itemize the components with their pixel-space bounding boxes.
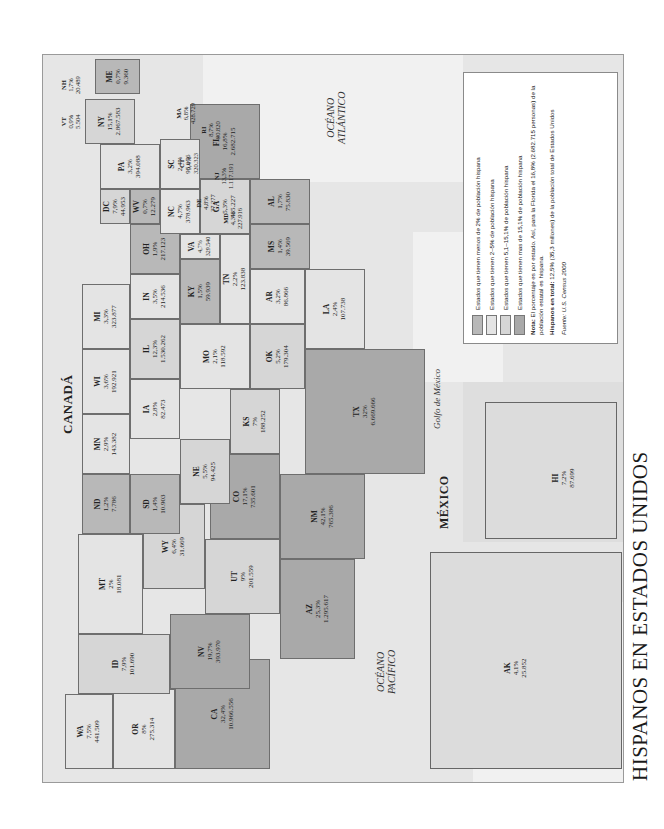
state-pop: 428.729 <box>189 103 196 124</box>
state-pop: 82.473 <box>159 399 167 418</box>
rotated-map-canvas: CANADÁ MÉXICO OCÉANO ATLÁNTICO OCÉANO PA… <box>0 0 664 829</box>
state-pct: 3,5% <box>151 289 159 304</box>
state-pct: 3,2% <box>274 289 282 304</box>
state-pct: 7,5% <box>85 724 93 739</box>
state-pop: 37.277 <box>209 194 216 212</box>
state-mt: MT2%18.081 <box>78 534 143 634</box>
legend-source-text: Fuente: U.S. Census 2000 <box>560 262 567 335</box>
state-id: ID7,9%101.690 <box>78 634 170 694</box>
state-pct: 4,8% <box>202 194 209 212</box>
state-pct: 12,3% <box>151 340 159 358</box>
state-pop: 378.963 <box>184 200 192 223</box>
state-nj: NJ13,3%1.117.191 <box>213 163 234 189</box>
state-abbr: WA <box>77 725 85 737</box>
state-ks: KS7%188.252 <box>230 389 280 454</box>
pacific-label-line1: OCÉANO <box>375 650 386 694</box>
state-pct: 0,7% <box>141 199 149 214</box>
state-pct: 32,4% <box>219 705 227 723</box>
state-tx: TX32%6.669.666 <box>305 349 425 474</box>
state-pop: 94.425 <box>209 462 217 481</box>
state-pct: 19,7% <box>206 642 214 660</box>
legend-total-text: 12,5% (35,3 millones) de la población to… <box>548 109 555 281</box>
state-wv: WV0,7%12.279 <box>130 189 160 224</box>
state-la: LA2,4%107.738 <box>305 269 365 349</box>
state-pct: 4,7% <box>196 240 204 253</box>
state-pa: PA3,2%394.088 <box>100 144 160 189</box>
state-pop: 394.088 <box>134 155 142 178</box>
state-pop: 393.970 <box>214 640 222 663</box>
pacific-label: OCÉANO PACÍFICO <box>375 650 397 694</box>
state-pop: 75.830 <box>284 192 292 211</box>
state-pop: 90.820 <box>214 121 221 139</box>
state-me: ME0,7%9.360 <box>95 59 140 94</box>
legend-label: Estados que tienen mas de 15,1% de pobla… <box>516 156 523 310</box>
state-pop: 2.867.583 <box>114 108 122 136</box>
state-pop: 143.382 <box>110 433 118 456</box>
state-nv: NV19,7%393.970 <box>170 614 250 689</box>
legend-item: Estados que tienen mas de 15,1% de pobla… <box>514 81 525 335</box>
state-pop: 765.386 <box>327 505 335 528</box>
legend-swatch <box>486 315 497 335</box>
state-pct: 1,9% <box>151 242 159 257</box>
state-pop: 227.916 <box>236 208 243 229</box>
state-pct: 6,4% <box>170 539 178 554</box>
state-pop: 217.123 <box>159 238 167 261</box>
state-ne: NE5,5%94.425 <box>180 439 230 504</box>
state-pop: 7.786 <box>110 496 118 512</box>
state-pop: 320.323 <box>192 153 199 174</box>
state-pct: 2,4% <box>331 302 339 317</box>
state-pop: 118.592 <box>219 345 227 368</box>
state-pct: 1,5% <box>196 284 204 299</box>
legend-label: Estados que tienen 2–5% de población his… <box>488 179 495 310</box>
state-ky: KY1,5%59.939 <box>180 259 220 324</box>
gulf-label: Golfo de México <box>432 369 443 429</box>
legend-total: Hispanos en total: 12,5% (35,3 millones)… <box>548 81 556 335</box>
state-ok: OK5,2%179.304 <box>250 324 305 389</box>
state-pop: 214.536 <box>159 285 167 308</box>
state-pct: 9% <box>239 572 247 581</box>
state-pct: 3,6% <box>102 374 110 389</box>
state-pct: 13,3% <box>220 163 227 189</box>
legend-item: Estados que tienen 2–5% de población his… <box>486 81 497 335</box>
legend-note-heading: Nota: <box>529 319 536 335</box>
legend-swatch <box>472 315 483 335</box>
state-pct: 4,7% <box>176 204 184 219</box>
state-nd: ND1,2%7.786 <box>82 474 130 534</box>
state-pct: 7% <box>251 417 259 426</box>
state-pct: 1,4% <box>151 497 159 512</box>
state-pop: 39.569 <box>284 237 292 256</box>
legend-label: Estados que tienen 5,1–15,1% de població… <box>502 166 509 311</box>
state-pop: 107.738 <box>339 298 347 321</box>
state-pop: 20.489 <box>74 76 81 94</box>
legend-swatch <box>514 315 525 335</box>
state-ct: CT9,4%320.323 <box>178 153 199 174</box>
state-pct: 5,5% <box>201 464 209 479</box>
state-pct: 4,3% <box>229 208 236 229</box>
state-pop: 9.360 <box>122 69 130 85</box>
state-pop: 10.966.556 <box>227 698 235 730</box>
pacific-label-line2: PACÍFICO <box>386 650 397 694</box>
state-pop: 6.669.666 <box>369 398 377 426</box>
state-pct: 8,7% <box>207 121 214 139</box>
legend-note-text: El porcentaje es por estado. Así, para l… <box>529 86 544 335</box>
state-pct: 1,7% <box>276 194 284 209</box>
state-pop: 192.921 <box>110 370 118 393</box>
state-hi: HI7,2%87.699 <box>541 448 586 508</box>
state-pct: 2% <box>107 579 115 588</box>
canada-label: CANADÁ <box>60 375 76 434</box>
state-az: AZ25,3%1.295.617 <box>280 559 355 659</box>
state-va: VA4,7%329.540 <box>180 234 220 259</box>
state-tn: TN2,2%123.838 <box>220 234 250 324</box>
state-pop: 188.252 <box>259 410 267 433</box>
map-title: HISPANOS EN ESTADOS UNIDOS <box>628 451 653 781</box>
state-nh: NH1,7%20.489 <box>60 76 81 94</box>
state-pop: 2.682.715 <box>229 128 237 156</box>
state-ri: RI8,7%90.820 <box>200 121 221 139</box>
state-pop: 735.601 <box>249 485 257 508</box>
state-pct: 2,1% <box>211 349 219 364</box>
state-al: AL1,7%75.830 <box>250 179 310 224</box>
state-in: IN3,5%214.536 <box>130 274 180 319</box>
state-pct: 7,2% <box>560 471 568 486</box>
state-pop: 31.669 <box>178 537 186 556</box>
state-pop: 201.559 <box>247 565 255 588</box>
